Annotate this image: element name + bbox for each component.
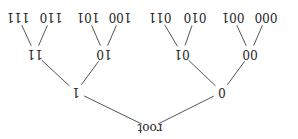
tree-edge (189, 60, 216, 86)
tree-node-label: 01 (174, 48, 189, 60)
tree-edge (42, 60, 70, 86)
tree-node-label: 1 (72, 86, 80, 98)
tree-edge (108, 25, 117, 45)
tree-node-label: 000 (255, 11, 278, 23)
tree-edge (158, 96, 214, 124)
tree-edge (84, 96, 142, 124)
tree-edge (81, 61, 98, 85)
tree-edge (254, 25, 263, 45)
tree-node-label: 11 (27, 48, 42, 60)
tree-node-label: 011 (149, 11, 172, 23)
tree-edge (92, 25, 101, 45)
tree-edge (22, 25, 31, 46)
tree-node-label: 10 (96, 48, 111, 60)
tree-node-label: 00 (242, 48, 257, 60)
tree-node-label: 101 (77, 11, 100, 23)
tree-node-label: 010 (184, 11, 207, 23)
tree-edge (165, 25, 178, 47)
tree-edge (39, 25, 48, 45)
tree-node-label: 100 (109, 11, 132, 23)
tree-node-label: 0 (218, 86, 226, 98)
tree-node-label: 001 (222, 11, 245, 23)
tree-node-label: root (137, 122, 162, 134)
tree-edge (227, 61, 244, 85)
tree-diagram: root0100011011000001010011100101110111 (0, 0, 298, 139)
tree-node-label: 111 (7, 11, 30, 23)
tree-node-label: 110 (40, 11, 63, 23)
tree-edge (237, 25, 246, 46)
tree-edge (185, 25, 192, 45)
